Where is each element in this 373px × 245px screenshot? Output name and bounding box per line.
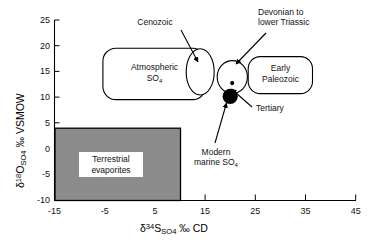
annotation-tertiary: Tertiary — [256, 103, 298, 113]
x-axis-subscript: SO4 — [161, 227, 176, 236]
modern-line2: marine SO4 — [180, 157, 252, 170]
annotation-cenozoic: Cenozoic — [128, 17, 182, 27]
evaporites-line2: evaporites — [82, 165, 140, 176]
y-axis-superscript: 18 — [14, 174, 23, 182]
devonian-line1: Devonian to — [258, 7, 334, 17]
atmospheric-line2: SO4 — [103, 73, 206, 86]
annotation-devonian-to-lower-triassic: Devonian to lower Triassic — [258, 7, 334, 27]
x-axis-unit: ‰ CD — [179, 222, 208, 234]
x-axis-title: δ34SSO4 ‰ CD — [140, 222, 208, 236]
x-tick-label: 5 — [141, 207, 169, 216]
region-label-early-paleozoic: Early Paleozoic — [248, 63, 313, 84]
modern-marine-leader — [215, 103, 227, 143]
y-tick-label: 25 — [28, 16, 50, 25]
y-tick-label: 0 — [28, 145, 50, 154]
atmospheric-so-subscript: 4 — [159, 76, 162, 83]
atmospheric-line1: Atmospheric — [103, 62, 206, 73]
region-devonian-to-lower-triassic — [217, 61, 247, 94]
x-tick-label: 35 — [292, 207, 320, 216]
region-label-terrestrial-evaporites: Terrestrial evaporites — [79, 152, 143, 177]
y-tick-label: -10 — [28, 196, 50, 205]
y-axis-subscript: SO4 — [19, 150, 28, 165]
y-tick-label: 20 — [28, 42, 50, 51]
early-paleozoic-line1: Early — [248, 63, 313, 74]
modern-line1: Modern — [180, 147, 252, 157]
y-tick-label: 15 — [28, 67, 50, 76]
x-axis-superscript: 34 — [146, 222, 154, 231]
x-tick-label: 45 — [342, 207, 370, 216]
x-tick-label: -5 — [91, 207, 119, 216]
modern-marine-so-text: marine SO — [194, 157, 235, 167]
y-tick-label: 10 — [28, 93, 50, 102]
x-tick-label: -15 — [41, 207, 69, 216]
atmospheric-so-text: SO — [147, 73, 159, 83]
x-tick-label: 15 — [191, 207, 219, 216]
x-tick-label: 25 — [241, 207, 269, 216]
point-modern-marine-so4 — [223, 89, 238, 104]
y-tick-label: 5 — [28, 119, 50, 128]
y-axis-unit: ‰ VSMOW — [14, 93, 26, 147]
region-label-atmospheric-so4: Atmospheric SO4 — [103, 62, 206, 86]
y-tick-label: -5 — [28, 170, 50, 179]
evaporites-line1: Terrestrial — [82, 154, 140, 165]
modern-marine-so-subscript: 4 — [235, 161, 238, 168]
y-axis-element: O — [14, 166, 26, 174]
chart-figure: 25 20 15 10 5 0 -5 -10 -15 -5 5 15 25 35… — [0, 0, 373, 245]
y-axis-title: δ18OSO4 ‰ VSMOW — [14, 93, 28, 188]
y-axis-delta: δ — [14, 182, 26, 188]
early-paleozoic-line2: Paleozoic — [248, 74, 313, 85]
point-tertiary — [230, 81, 234, 85]
devonian-line2: lower Triassic — [258, 17, 334, 27]
annotation-modern-marine-so4: Modern marine SO4 — [180, 147, 252, 170]
